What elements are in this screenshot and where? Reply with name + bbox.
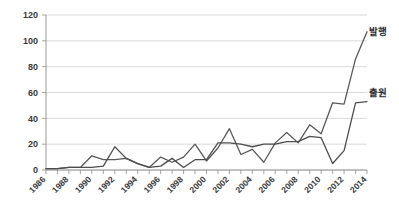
y-tick-label-120: 120 bbox=[23, 10, 38, 20]
series-label-application: 출원 bbox=[369, 87, 387, 98]
line-chart: 020406080100120 198619881990199219941996… bbox=[0, 0, 399, 204]
chart-background bbox=[0, 0, 399, 204]
y-tick-label-0: 0 bbox=[33, 165, 38, 175]
y-tick-label-60: 60 bbox=[28, 88, 38, 98]
y-tick-label-20: 20 bbox=[28, 139, 38, 149]
chart-container: 020406080100120 198619881990199219941996… bbox=[0, 0, 399, 204]
y-tick-label-80: 80 bbox=[28, 62, 38, 72]
y-tick-label-40: 40 bbox=[28, 114, 38, 124]
y-tick-label-100: 100 bbox=[23, 36, 38, 46]
series-label-issuance: 발행 bbox=[369, 26, 387, 37]
